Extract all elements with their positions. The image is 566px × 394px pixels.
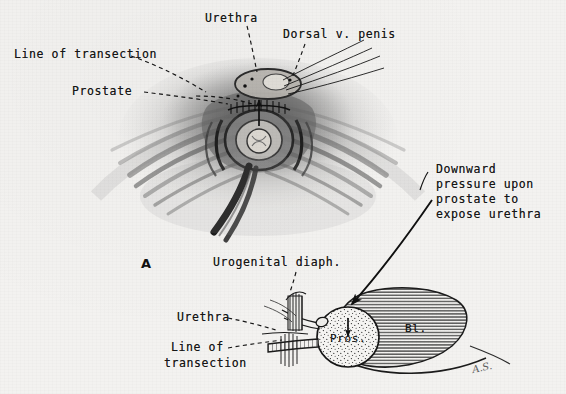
annotation-line-3: prostate to	[436, 193, 519, 206]
label-prostate-figure-a: Prostate	[72, 85, 132, 98]
leader-urogenital-diaph	[290, 272, 296, 292]
label-prostate-abbrev: Pros.	[330, 332, 366, 345]
figure-letter-a: A	[141, 256, 151, 271]
annotation-line-4: expose urethra	[436, 208, 541, 221]
annotation-line-1: Downward	[436, 163, 496, 176]
label-line-of-transection-figure-a: Line of transection	[14, 48, 157, 61]
annotation-line-2: pressure upon	[436, 178, 534, 191]
figure-a-artwork	[96, 40, 420, 240]
label-bladder-abbrev: Bl.	[405, 322, 427, 335]
label-line-of-transection-figure-b-line2: transection	[164, 357, 247, 370]
leader-urethra-b	[228, 318, 276, 330]
label-urethra-figure-b: Urethra	[177, 311, 230, 324]
label-dorsal-vein-penis: Dorsal v. penis	[283, 28, 396, 41]
annotation-hook	[420, 172, 428, 190]
label-urogenital-diaphragm: Urogenital diaph.	[213, 256, 341, 269]
label-line-of-transection-figure-b-line1: Line of	[171, 341, 224, 354]
figure-b-leader-lines	[228, 272, 296, 348]
illustration-plate: Urethra Dorsal v. penis Line of transect…	[0, 0, 566, 394]
label-urethra-figure-a: Urethra	[205, 12, 258, 25]
